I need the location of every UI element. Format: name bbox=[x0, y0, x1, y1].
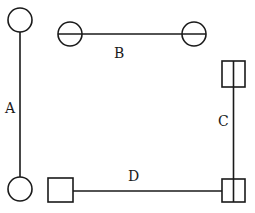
link-c-label: C bbox=[218, 113, 229, 129]
link-d-label: D bbox=[128, 168, 139, 184]
link-c bbox=[222, 61, 245, 202]
link-a-top-circle bbox=[8, 8, 32, 32]
link-a-bottom-circle bbox=[8, 177, 32, 201]
link-a-label: A bbox=[4, 100, 16, 116]
links-diagram: A B C D bbox=[0, 0, 255, 213]
link-b-label: B bbox=[114, 45, 124, 61]
diagram-canvas: A B C D bbox=[0, 0, 255, 213]
link-b bbox=[58, 22, 206, 46]
link-d-left-square bbox=[48, 178, 73, 202]
